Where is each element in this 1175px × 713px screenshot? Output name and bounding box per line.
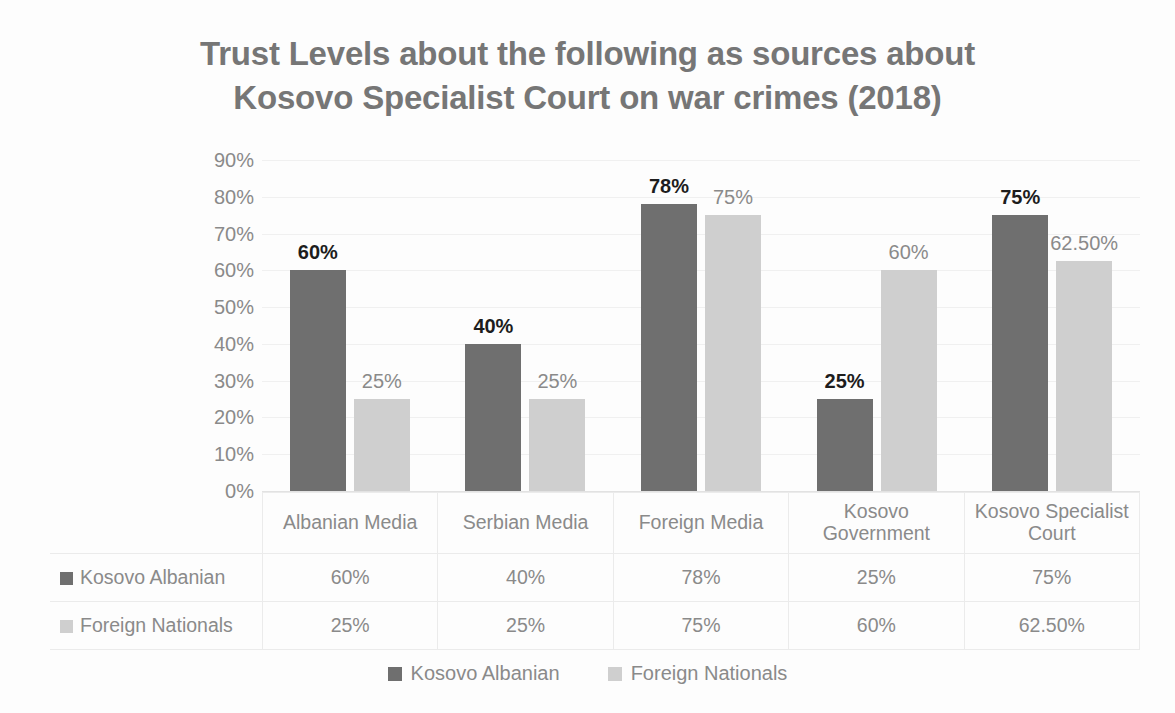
data-table: Albanian MediaSerbian MediaForeign Media… [50,492,1140,650]
table-column-header: Serbian Media [438,493,613,554]
legend-item[interactable]: Kosovo Albanian [388,662,560,685]
page-title: Trust Levels about the following as sour… [0,32,1175,120]
legend-label: Foreign Nationals [631,662,788,685]
bar-value-label: 60% [298,242,338,262]
table-cell: 75% [613,602,788,650]
bar-value-label: 40% [473,316,513,336]
bar-group: 60%25% [262,160,438,492]
y-axis-tick: 50% [182,296,254,319]
bar[interactable] [705,215,761,491]
y-axis-tick: 20% [182,406,254,429]
legend-swatch-icon [388,667,402,681]
y-axis-tick: 70% [182,222,254,245]
legend-label: Kosovo Albanian [411,662,560,685]
bar-group: 78%75% [613,160,789,492]
table-header-row: Albanian MediaSerbian MediaForeign Media… [50,493,1140,554]
table-row-header: Foreign Nationals [50,602,263,650]
bar[interactable] [529,399,585,491]
bar-slot: 25% [529,160,585,492]
bar-group: 75%62.50% [964,160,1140,492]
y-axis: 90%80%70%60%50%40%30%20%10%0% [178,160,254,492]
table-row: Foreign Nationals25%25%75%60%62.50% [50,602,1140,650]
table-cell: 40% [438,554,613,602]
table-row-header: Kosovo Albanian [50,554,263,602]
bar[interactable] [354,399,410,491]
table-cell: 25% [263,602,438,650]
bar-slot: 75% [705,160,761,492]
title-line-2: Kosovo Specialist Court on war crimes (2… [0,76,1175,120]
bar-value-label: 75% [713,187,753,207]
bar-group: 25%60% [789,160,965,492]
y-axis-tick: 80% [182,185,254,208]
bar-slot: 60% [290,160,346,492]
bar[interactable] [641,204,697,491]
bar[interactable] [1056,261,1112,491]
bar[interactable] [290,270,346,491]
bar-slot: 60% [881,160,937,492]
bar-slot: 78% [641,160,697,492]
y-axis-tick: 90% [182,149,254,172]
bar-value-label: 62.50% [1050,233,1118,253]
chart-legend: Kosovo AlbanianForeign Nationals [0,662,1175,685]
bar-value-label: 60% [889,242,929,262]
y-axis-tick: 30% [182,369,254,392]
table-cell: 60% [263,554,438,602]
bar-value-label: 75% [1000,187,1040,207]
legend-item[interactable]: Foreign Nationals [608,662,788,685]
bar-value-label: 25% [537,371,577,391]
plot-area: 90%80%70%60%50%40%30%20%10%0% 60%25%40%2… [0,160,1175,492]
table-cell: 78% [613,554,788,602]
bar[interactable] [881,270,937,491]
table-column-header: Kosovo Government [789,493,964,554]
table-cell: 62.50% [964,602,1139,650]
bar-slot: 62.50% [1056,160,1112,492]
table-cell: 25% [438,602,613,650]
bar-slot: 25% [354,160,410,492]
table-cell: 60% [789,602,964,650]
bar[interactable] [817,399,873,491]
data-table-body: Albanian MediaSerbian MediaForeign Media… [50,493,1140,650]
y-axis-tick: 40% [182,332,254,355]
bar-value-label: 25% [362,371,402,391]
y-axis-tick: 10% [182,443,254,466]
y-axis-tick: 60% [182,259,254,282]
chart-page: Trust Levels about the following as sour… [0,0,1175,713]
bar-slot: 75% [992,160,1048,492]
table-cell: 75% [964,554,1139,602]
bar-slot: 40% [465,160,521,492]
bar-value-label: 78% [649,176,689,196]
bar-series-layer: 60%25%40%25%78%75%25%60%75%62.50% [262,160,1140,492]
title-line-1: Trust Levels about the following as sour… [0,32,1175,76]
bar[interactable] [465,344,521,491]
series-swatch-icon [60,572,73,585]
bar-value-label: 25% [825,371,865,391]
bar-group: 40%25% [438,160,614,492]
series-swatch-icon [60,620,73,633]
table-corner-cell [50,493,263,554]
series-name: Foreign Nationals [80,614,233,636]
series-name: Kosovo Albanian [80,566,225,588]
bar-slot: 25% [817,160,873,492]
table-row: Kosovo Albanian60%40%78%25%75% [50,554,1140,602]
table-cell: 25% [789,554,964,602]
legend-swatch-icon [608,667,622,681]
bar[interactable] [992,215,1048,491]
table-column-header: Albanian Media [263,493,438,554]
table-column-header: Foreign Media [613,493,788,554]
table-column-header: Kosovo Specialist Court [964,493,1139,554]
